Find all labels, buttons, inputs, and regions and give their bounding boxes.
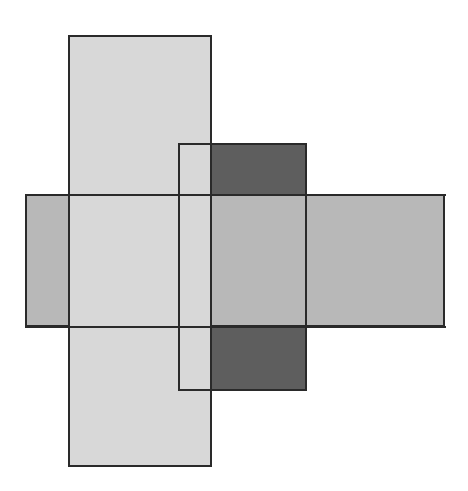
diagram-canvas [0,0,468,491]
band-edge-overlay [25,194,446,328]
dark-column-divider [210,143,212,391]
